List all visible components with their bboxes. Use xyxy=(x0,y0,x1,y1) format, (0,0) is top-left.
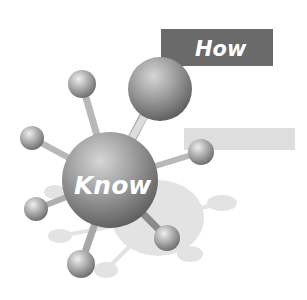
lower-left-sphere xyxy=(24,197,48,221)
know-label: Know xyxy=(74,171,152,200)
bottom-right-sphere xyxy=(154,225,180,251)
how-know-illustration: How Know xyxy=(0,0,307,300)
molecule-graphic: How Know xyxy=(0,0,307,300)
bottom-sphere xyxy=(67,250,95,278)
how-label: How xyxy=(195,37,247,61)
top-large-sphere xyxy=(128,57,192,121)
right-sphere xyxy=(188,139,214,165)
left-sphere xyxy=(20,126,44,150)
upper-left-sphere xyxy=(68,70,96,98)
